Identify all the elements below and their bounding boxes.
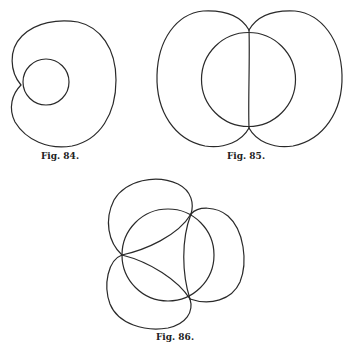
fig86-right-lobe-outer xyxy=(190,208,244,302)
fig85-vertical-chord xyxy=(249,30,250,128)
fig86-bottom-left-lobe-inner xyxy=(122,255,190,299)
figure-86-drawing xyxy=(107,179,244,329)
fig84-caption: Fig. 84. xyxy=(41,151,79,161)
fig85-caption: Fig. 85. xyxy=(227,151,265,161)
fig84-inner-circle xyxy=(23,59,69,105)
figures-canvas xyxy=(0,0,346,347)
fig86-right-lobe-inner xyxy=(184,214,191,299)
fig84-outer-curve xyxy=(11,21,116,147)
figure-84-drawing xyxy=(11,21,116,147)
fig85-left-lobe xyxy=(157,11,249,147)
figure-85-drawing xyxy=(157,11,342,147)
fig86-caption: Fig. 86. xyxy=(156,332,194,342)
fig86-bottom-left-lobe-outer xyxy=(107,255,191,329)
fig86-top-left-lobe-outer xyxy=(108,179,192,255)
fig86-central-circle xyxy=(122,209,214,301)
fig86-top-left-lobe-inner xyxy=(122,214,191,255)
